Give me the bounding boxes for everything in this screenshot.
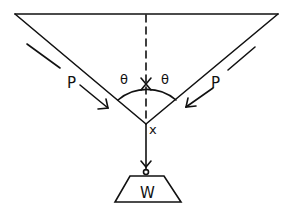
force-diagram: θ θ P P x W bbox=[0, 0, 290, 212]
force-left-label: P bbox=[67, 76, 76, 91]
theta-right-label: θ bbox=[161, 73, 169, 86]
angle-arc bbox=[118, 89, 176, 100]
diagram-canvas bbox=[0, 0, 290, 212]
hook-ring bbox=[144, 170, 149, 175]
junction-label: x bbox=[149, 123, 157, 136]
weight-label: W bbox=[140, 186, 155, 201]
force-right-label: P bbox=[211, 76, 220, 91]
right-rope bbox=[146, 14, 278, 124]
right-force-parallel-line bbox=[228, 47, 255, 70]
left-rope bbox=[15, 14, 146, 124]
right-force-arrow-shaft bbox=[186, 88, 213, 107]
theta-left-label: θ bbox=[120, 73, 128, 86]
